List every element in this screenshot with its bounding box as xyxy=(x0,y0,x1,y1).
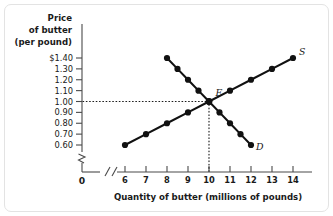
y-axis-ticks xyxy=(76,58,82,145)
supply-curve-label: S xyxy=(299,46,305,57)
x-axis-break-mark-2 xyxy=(112,167,117,176)
x-axis-break-mark-1 xyxy=(105,167,110,176)
x-tick-label: 12 xyxy=(245,175,257,185)
equilibrium-label: E xyxy=(215,87,223,98)
x-tick-label: 6 xyxy=(122,175,128,185)
y-tick-label: 0.70 xyxy=(55,129,73,139)
y-tick-label: 0.60 xyxy=(55,140,73,150)
origin-label: 0 xyxy=(79,175,85,186)
x-tick-label: 7 xyxy=(143,175,149,185)
y-tick-label: 1.00 xyxy=(55,97,73,107)
x-tick-label: 11 xyxy=(224,175,236,185)
y-tick-label: 1.20 xyxy=(55,75,73,85)
figure-container: $1.40 1.30 1.20 1.10 1.00 0.90 0.80 0.70… xyxy=(0,0,333,216)
y-tick-label: $1.40 xyxy=(49,53,73,63)
equilibrium-point xyxy=(206,98,213,105)
x-tick-label: 10 xyxy=(203,175,215,185)
y-tick-label: 1.10 xyxy=(55,86,73,96)
x-tick-label: 13 xyxy=(266,175,278,185)
y-axis-title-line-1: Price xyxy=(48,13,73,23)
y-tick-label: 0.80 xyxy=(55,118,73,128)
y-axis-title-line-3: (per pound) xyxy=(14,37,72,47)
demand-curve-label: D xyxy=(255,141,264,152)
y-axis-title-line-2: of butter xyxy=(29,25,73,35)
x-axis-title: Quantity of butter (millions of pounds) xyxy=(114,192,302,202)
x-tick-label: 9 xyxy=(185,175,191,185)
y-axis-break-mark xyxy=(79,154,86,163)
y-tick-label: 0.90 xyxy=(55,107,73,117)
supply-demand-chart: $1.40 1.30 1.20 1.10 1.00 0.90 0.80 0.70… xyxy=(0,0,333,216)
x-tick-label: 14 xyxy=(287,175,299,185)
x-tick-label: 8 xyxy=(164,175,170,185)
y-tick-label: 1.30 xyxy=(55,64,73,74)
